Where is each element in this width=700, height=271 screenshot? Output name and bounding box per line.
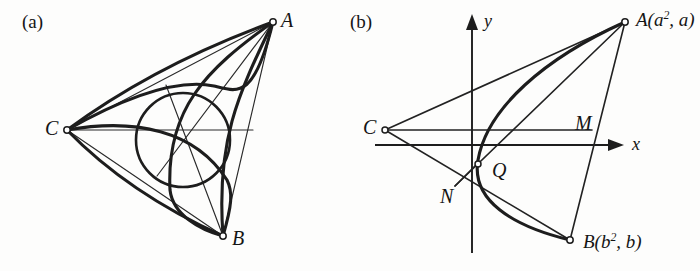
line-CB bbox=[385, 130, 570, 240]
label-B-tail: , b) bbox=[616, 231, 641, 252]
point-dot-A bbox=[622, 19, 628, 25]
label-b-point-M: M bbox=[575, 113, 592, 133]
panel-b-tag: (b) bbox=[350, 12, 372, 31]
label-b-point-N: N bbox=[440, 186, 453, 206]
point-dot-B bbox=[567, 237, 573, 243]
label-b-point-B-coords: B(b2, b) bbox=[583, 232, 642, 251]
label-a-vertex-C: C bbox=[45, 118, 58, 138]
y-axis-arrowhead bbox=[466, 14, 478, 30]
label-b-point-C: C bbox=[363, 117, 376, 137]
x-axis-arrowhead bbox=[608, 139, 624, 151]
point-dot-C bbox=[382, 127, 388, 133]
label-a-vertex-A: A bbox=[281, 10, 293, 30]
panel-a-thick-curves bbox=[67, 22, 273, 236]
label-b-axis-y: y bbox=[484, 12, 492, 30]
panel-a-tag: (a) bbox=[22, 12, 43, 31]
label-B-base: B(b bbox=[583, 231, 610, 252]
figure-root: (a) (b) A B C y x C M N Q A(a2, a) B(b2,… bbox=[0, 0, 700, 271]
panel-b-diagram bbox=[350, 0, 700, 271]
cevian-B bbox=[166, 85, 223, 236]
point-dot-Q bbox=[475, 161, 481, 167]
vertex-dot-C bbox=[64, 127, 70, 133]
label-A-tail: , a) bbox=[669, 9, 694, 30]
vertex-dot-B bbox=[220, 233, 226, 239]
label-b-axis-x: x bbox=[632, 135, 640, 153]
label-b-point-A-coords: A(a2, a) bbox=[636, 10, 695, 29]
label-A-base: A(a bbox=[636, 9, 663, 30]
label-a-vertex-B: B bbox=[232, 228, 244, 248]
label-b-point-Q: Q bbox=[492, 160, 506, 180]
panel-a-thin-lines bbox=[67, 22, 273, 236]
vertex-dot-A bbox=[270, 19, 276, 25]
